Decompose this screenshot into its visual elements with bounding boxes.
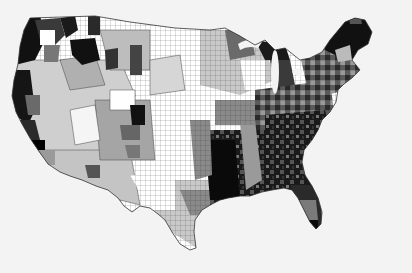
map-land (0, 0, 412, 273)
lake-michigan (271, 50, 279, 94)
map-container (0, 0, 412, 273)
us-county-choropleth-map (0, 0, 412, 273)
